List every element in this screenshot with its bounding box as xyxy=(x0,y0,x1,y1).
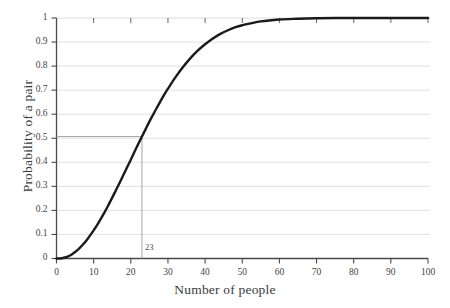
chart-figure: Probability of a pair Number of people 0… xyxy=(0,0,450,308)
gridlines-group xyxy=(57,18,431,234)
y-tick-label: 0.1 xyxy=(4,228,48,238)
y-tick-label: 1 xyxy=(4,12,48,22)
x-tick-label: 20 xyxy=(111,267,151,277)
x-tick-label: 40 xyxy=(185,267,225,277)
x-tick-label: 30 xyxy=(148,267,188,277)
y-tick-label: 0.9 xyxy=(4,36,48,46)
chart-canvas xyxy=(0,0,450,308)
y-tick-label: 0.2 xyxy=(4,204,48,214)
y-tick-label: 0.7 xyxy=(4,84,48,94)
marker-value-label: 23 xyxy=(145,242,154,252)
y-tick-label: 0 xyxy=(4,252,48,262)
y-tick-label: 0.3 xyxy=(4,180,48,190)
marker-guide-lines-group xyxy=(57,137,142,259)
y-tick-marks-group xyxy=(52,18,57,259)
y-tick-label: 0.5 xyxy=(4,132,48,142)
x-tick-label: 70 xyxy=(297,267,337,277)
x-tick-label: 0 xyxy=(37,267,77,277)
x-tick-label: 100 xyxy=(408,267,448,277)
x-tick-label: 50 xyxy=(222,267,262,277)
x-tick-marks-group xyxy=(57,259,429,264)
y-tick-label: 0.4 xyxy=(4,156,48,166)
y-tick-label: 0.6 xyxy=(4,108,48,118)
x-tick-label: 60 xyxy=(259,267,299,277)
x-axis-title: Number of people xyxy=(0,282,450,298)
y-tick-label: 0.8 xyxy=(4,60,48,70)
x-tick-label: 90 xyxy=(371,267,411,277)
x-tick-label: 80 xyxy=(334,267,374,277)
x-tick-label: 10 xyxy=(74,267,114,277)
